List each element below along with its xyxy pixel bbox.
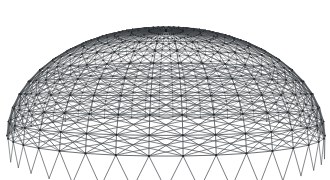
lattice-node <box>302 110 304 112</box>
lattice-node <box>295 80 297 82</box>
lattice-node <box>171 27 172 28</box>
lattice-node <box>237 94 239 96</box>
lattice-node <box>219 76 220 77</box>
lattice-node <box>146 92 147 93</box>
lattice-node <box>116 37 117 38</box>
lattice-node <box>59 92 60 93</box>
lattice-node <box>200 32 201 33</box>
lattice-node <box>202 41 203 42</box>
lattice-node <box>101 42 102 43</box>
lattice-node <box>143 55 144 56</box>
lattice-node <box>78 66 79 67</box>
lattice-node <box>131 117 132 118</box>
lattice-node <box>32 82 33 83</box>
lattice-node <box>69 65 71 67</box>
lattice-node <box>70 92 71 93</box>
lattice-node <box>191 62 192 63</box>
lattice-node <box>312 105 313 106</box>
lattice-node <box>111 60 112 61</box>
lattice-node <box>115 154 117 156</box>
lattice-node <box>41 68 43 70</box>
lattice-node <box>126 29 128 31</box>
lattice-node <box>270 56 272 58</box>
lattice-node <box>149 114 151 116</box>
lattice-node <box>192 28 194 30</box>
lattice-node <box>240 39 242 41</box>
lattice-node <box>122 84 123 85</box>
lattice-node <box>172 84 173 85</box>
lattice-node <box>124 76 125 77</box>
lattice-node <box>197 41 198 42</box>
lattice-node <box>150 29 151 30</box>
lattice-node <box>115 33 116 34</box>
lattice-node <box>162 33 163 34</box>
lattice-node <box>153 62 155 64</box>
lattice-node <box>224 92 225 93</box>
lattice-node <box>225 34 227 36</box>
lattice-node <box>79 101 80 102</box>
lattice-node <box>92 101 93 102</box>
lattice-node <box>198 92 199 93</box>
lattice-node <box>199 29 201 31</box>
lattice-node <box>244 48 245 49</box>
lattice-node <box>237 92 238 93</box>
lattice-node <box>12 107 14 109</box>
lattice-node <box>21 127 22 128</box>
radial-member <box>216 135 217 155</box>
lattice-node <box>213 100 214 101</box>
lattice-node <box>138 69 139 70</box>
lattice-node <box>171 62 172 63</box>
lattice-node <box>10 119 12 121</box>
lattice-node <box>210 39 211 40</box>
lattice-node <box>50 94 52 96</box>
lattice-node <box>145 27 147 29</box>
lattice-node <box>257 83 258 84</box>
lattice-node <box>83 45 85 47</box>
lattice-node <box>94 92 95 93</box>
lattice-node <box>213 35 215 37</box>
lattice-node <box>161 27 163 29</box>
lattice-node <box>90 75 91 76</box>
lattice-node <box>169 49 170 50</box>
lattice-node <box>52 59 54 61</box>
lattice-node <box>187 37 188 38</box>
lattice-node <box>90 39 92 41</box>
lattice-node <box>86 84 87 85</box>
lattice-node <box>157 26 159 28</box>
lattice-node <box>81 53 83 55</box>
lattice-node <box>145 100 146 101</box>
lattice-node <box>160 33 161 34</box>
lattice-node <box>182 69 183 70</box>
lattice-node <box>199 48 200 49</box>
lattice-node <box>134 84 135 85</box>
lattice-node <box>134 29 135 30</box>
lattice-node <box>255 47 257 49</box>
lattice-node <box>156 33 157 34</box>
lattice-node <box>256 56 257 57</box>
lattice-node <box>162 43 163 44</box>
lattice-node <box>70 74 71 75</box>
lattice-node <box>276 102 277 103</box>
lattice-node <box>182 155 184 157</box>
lattice-node <box>45 79 47 81</box>
lattice-node <box>219 60 220 61</box>
lattice-node <box>116 68 117 69</box>
lattice-node <box>214 117 215 118</box>
lattice-node <box>167 27 168 28</box>
lattice-node <box>8 121 10 123</box>
lattice-node <box>235 67 236 68</box>
lattice-node <box>151 37 152 38</box>
lattice-node <box>77 78 79 80</box>
lattice-node <box>319 107 321 109</box>
lattice-node <box>324 135 326 137</box>
lattice-node <box>14 130 15 131</box>
lattice-node <box>251 57 252 58</box>
lattice-node <box>131 108 132 109</box>
lattice-node <box>205 54 206 55</box>
lattice-node <box>316 117 317 118</box>
lattice-node <box>120 95 122 97</box>
lattice-node <box>228 60 229 61</box>
lattice-node <box>103 52 104 53</box>
lattice-node <box>156 40 158 42</box>
lattice-node <box>158 33 160 35</box>
